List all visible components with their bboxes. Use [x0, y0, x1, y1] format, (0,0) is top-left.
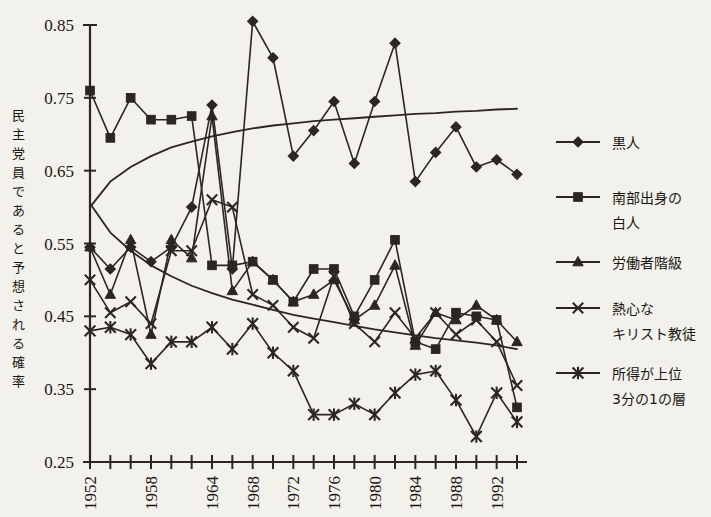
y-axis-title-char: で — [12, 184, 25, 199]
marker-square — [574, 193, 583, 202]
y-axis-title-char: と — [12, 241, 25, 256]
legend-label: 白人 — [612, 215, 640, 231]
y-axis-title-char: る — [12, 222, 25, 237]
x-axis-tick-label: 1958 — [142, 476, 161, 510]
legend-label: 労働者階級 — [612, 255, 682, 271]
marker-square — [106, 134, 115, 143]
marker-square — [513, 403, 522, 412]
y-axis-title-char: る — [12, 336, 25, 351]
x-axis-tick-label: 1980 — [366, 476, 385, 510]
marker-square — [147, 115, 156, 124]
legend-label: 南部出身の — [612, 190, 682, 206]
marker-square — [126, 94, 135, 103]
x-axis-tick-label: 1964 — [203, 476, 222, 511]
y-axis-title-char: 予 — [12, 260, 25, 275]
marker-square — [167, 115, 176, 124]
y-axis-title-char: あ — [12, 203, 25, 218]
y-axis-tick-label: 0.45 — [44, 307, 74, 326]
x-axis-tick-label: 1984 — [406, 476, 425, 511]
x-axis-tick-label: 1988 — [447, 476, 466, 510]
marker-square — [370, 276, 379, 285]
y-axis-title-char: 主 — [12, 127, 25, 142]
marker-square — [391, 236, 400, 245]
probability-line-chart: 民主党員であると予想される確率 0.850.750.650.550.450.35… — [0, 0, 711, 517]
y-axis-tick-label: 0.55 — [44, 235, 74, 254]
x-axis-tick-label: 1952 — [81, 476, 100, 510]
y-axis-title-char: 党 — [12, 146, 25, 161]
marker-square — [208, 261, 217, 270]
y-axis-title-char: 確 — [12, 355, 25, 370]
x-axis-tick-label: 1972 — [284, 476, 303, 510]
x-axis-tick-label: 1992 — [488, 476, 507, 510]
y-axis-tick-label: 0.35 — [44, 380, 74, 399]
marker-square — [187, 112, 196, 121]
legend-label: 熱心な — [612, 301, 654, 317]
y-axis-title: 民主党員であると予想される確率 — [12, 108, 25, 389]
marker-square — [86, 86, 95, 95]
y-axis-tick-label: 0.25 — [44, 453, 74, 472]
y-axis-tick-label: 0.85 — [44, 16, 74, 35]
y-axis-title-char: 民 — [12, 108, 25, 123]
y-axis-tick-label: 0.65 — [44, 162, 74, 181]
y-axis-title-char: さ — [12, 298, 25, 313]
chart-background — [0, 0, 711, 517]
legend-label: 3分の1の層 — [612, 391, 686, 407]
y-axis-title-char: 員 — [12, 165, 25, 180]
y-axis-title-char: 率 — [12, 374, 25, 389]
legend-label: キリスト教徒 — [612, 326, 696, 342]
x-axis-tick-label: 1968 — [244, 476, 263, 510]
legend-label: 黒人 — [612, 135, 640, 151]
legend-label: 所得が上位 — [612, 366, 682, 382]
marker-square — [309, 265, 318, 274]
marker-square — [431, 345, 440, 354]
y-axis-title-char: 想 — [12, 279, 25, 294]
y-axis-title-char: れ — [12, 317, 25, 332]
chart-container: 民主党員であると予想される確率 0.850.750.650.550.450.35… — [0, 0, 711, 517]
x-axis-tick-label: 1976 — [325, 476, 344, 510]
y-axis-tick-label: 0.75 — [44, 89, 74, 108]
